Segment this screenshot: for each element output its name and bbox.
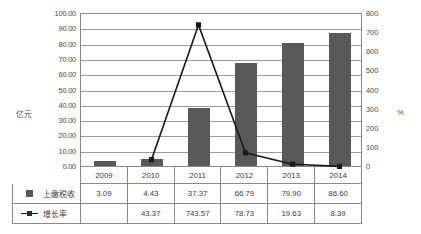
table-cell bbox=[81, 204, 128, 223]
y-axis-right: 800 700 600 500 400 300 200 100 0 bbox=[366, 0, 396, 180]
data-table: 上缴税收 3.09 4.43 37.37 66.79 79.90 86.60 增… bbox=[12, 184, 362, 224]
table-row: 上缴税收 3.09 4.43 37.37 66.79 79.90 86.60 bbox=[13, 184, 361, 204]
table-cell: 743.57 bbox=[175, 204, 222, 223]
table-cell: 8.39 bbox=[315, 204, 361, 223]
y-axis-right-tick: 300 bbox=[366, 104, 378, 113]
x-axis-category-row: 2009 2010 2011 2012 2013 2014 bbox=[80, 167, 362, 184]
y-axis-left-tick: 20.00 bbox=[59, 131, 77, 140]
y-axis-left-tick: 10.00 bbox=[59, 146, 77, 155]
y-axis-left-tick: 80.00 bbox=[59, 39, 77, 48]
table-row: 增长率 43.37 743.57 78.73 19.63 8.39 bbox=[13, 204, 361, 223]
y-axis-right-title: % bbox=[397, 108, 404, 117]
y-axis-left-tick: 30.00 bbox=[59, 116, 77, 125]
x-axis-category: 2009 bbox=[81, 167, 128, 183]
x-axis-category: 2013 bbox=[268, 167, 315, 183]
y-axis-right-tick: 700 bbox=[366, 28, 378, 37]
y-axis-left-tick: 100.00 bbox=[55, 9, 76, 18]
line-series bbox=[81, 14, 363, 168]
table-cell: 86.60 bbox=[315, 184, 361, 203]
bar-swatch-icon bbox=[20, 190, 38, 197]
table-cell: 78.73 bbox=[221, 204, 268, 223]
line-point-2011 bbox=[196, 22, 201, 27]
y-axis-left-title: 亿元 bbox=[16, 108, 32, 119]
table-cell: 66.79 bbox=[221, 184, 268, 203]
x-axis-category: 2012 bbox=[221, 167, 268, 183]
table-cell: 4.43 bbox=[128, 184, 175, 203]
table-cell: 3.09 bbox=[81, 184, 128, 203]
y-axis-left: 100.00 90.00 80.00 70.00 60.00 50.00 40.… bbox=[22, 0, 76, 180]
table-cell: 37.37 bbox=[175, 184, 222, 203]
y-axis-left-tick: 70.00 bbox=[59, 54, 77, 63]
y-axis-left-tick: 0.00 bbox=[62, 162, 76, 171]
growth-rate-line bbox=[152, 25, 340, 167]
y-axis-right-tick: 500 bbox=[366, 66, 378, 75]
y-axis-left-tick: 40.00 bbox=[59, 100, 77, 109]
y-axis-right-tick: 600 bbox=[366, 47, 378, 56]
table-cell: 19.63 bbox=[268, 204, 315, 223]
legend-label: 增长率 bbox=[38, 208, 67, 219]
x-axis-category: 2014 bbox=[315, 167, 361, 183]
line-marker-icon bbox=[20, 210, 38, 217]
chart-root: 100.00 90.00 80.00 70.00 60.00 50.00 40.… bbox=[0, 0, 421, 234]
y-axis-right-tick: 200 bbox=[366, 123, 378, 132]
table-cell: 79.90 bbox=[268, 184, 315, 203]
y-axis-left-tick: 50.00 bbox=[59, 85, 77, 94]
table-cell: 43.37 bbox=[128, 204, 175, 223]
y-axis-right-tick: 0 bbox=[366, 162, 370, 171]
x-axis-category: 2011 bbox=[175, 167, 222, 183]
plot-area bbox=[80, 13, 362, 167]
x-axis-category: 2010 bbox=[128, 167, 175, 183]
chart-plot-region: 100.00 90.00 80.00 70.00 60.00 50.00 40.… bbox=[0, 0, 421, 180]
line-point-2012 bbox=[243, 150, 248, 155]
legend-entry-growth: 增长率 bbox=[13, 204, 81, 223]
y-axis-right-tick: 100 bbox=[366, 142, 378, 151]
y-axis-left-tick: 90.00 bbox=[59, 24, 77, 33]
y-axis-right-tick: 400 bbox=[366, 85, 378, 94]
legend-entry-tax: 上缴税收 bbox=[13, 184, 81, 203]
y-axis-left-tick: 60.00 bbox=[59, 70, 77, 79]
line-point-2010 bbox=[149, 157, 154, 162]
legend-label: 上缴税收 bbox=[38, 188, 75, 199]
y-axis-right-tick: 800 bbox=[366, 9, 378, 18]
